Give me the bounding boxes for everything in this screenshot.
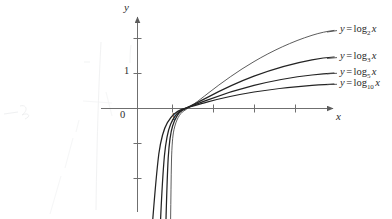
curve-label-log2-arg: x	[370, 23, 376, 34]
curve-label-log10-eq: =	[345, 77, 354, 88]
x-axis-label: x	[336, 111, 341, 122]
curve-label-log2-y: y	[340, 23, 345, 34]
curve-label-log5-eq: =	[345, 66, 354, 77]
curve-label-log10-base: 10	[367, 83, 374, 91]
curve-label-log10-y: y	[340, 77, 345, 88]
curve-log5	[161, 73, 334, 219]
curve-label-log2-eq: =	[345, 23, 354, 34]
leader-log5	[327, 73, 337, 74]
origin-tick-label: 0	[120, 110, 125, 121]
curve-log3	[166, 57, 334, 219]
plot-canvas	[0, 0, 392, 219]
x-tick-label-1: 1	[171, 112, 176, 123]
curve-label-log5-y: y	[340, 66, 345, 77]
curves-group	[153, 30, 334, 219]
curve-label-log3-y: y	[340, 50, 345, 61]
curve-label-log2-fn: log	[354, 23, 367, 34]
y-tick-label-1: 1	[124, 66, 129, 77]
curve-label-log5-fn: log	[354, 66, 367, 77]
axes-group	[101, 17, 333, 212]
curve-label-log10-arg: x	[374, 77, 380, 88]
curve-label-log5-arg: x	[370, 66, 376, 77]
curve-log2	[171, 30, 334, 219]
y-axis-label: y	[124, 2, 129, 13]
curve-log10	[153, 84, 334, 219]
curve-label-log2: y=log2x	[340, 24, 377, 37]
logarithm-graph-figure: y x 0 1 1 y=log2x y=log3x y=log5x y=log1…	[0, 0, 392, 219]
curve-label-log3: y=log3x	[340, 51, 377, 64]
curve-label-log10-fn: log	[354, 77, 367, 88]
scan-artifacts	[4, 42, 131, 214]
curve-label-log3-eq: =	[345, 50, 354, 61]
curve-label-log10: y=log10x	[340, 78, 380, 91]
curve-label-log3-arg: x	[370, 50, 376, 61]
curve-label-log3-fn: log	[354, 50, 367, 61]
